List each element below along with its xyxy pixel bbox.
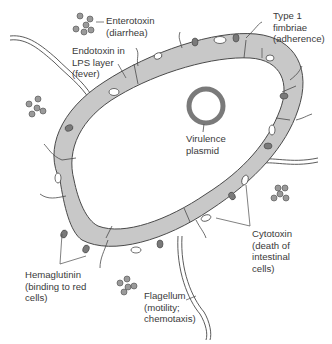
label-line: (adherence) bbox=[273, 33, 325, 44]
enterotoxin-cluster-left bbox=[26, 96, 46, 117]
label-endotoxin: Endotoxin in LPS layer (fever) bbox=[72, 45, 125, 80]
label-line: chemotaxis) bbox=[144, 313, 196, 324]
label-line: cells) bbox=[252, 263, 274, 274]
label-line: Hemaglutinin bbox=[25, 269, 81, 280]
label-fimbriae: Type 1 fimbriae (adherence) bbox=[273, 10, 325, 45]
enterotoxin-cluster-right bbox=[271, 185, 289, 201]
label-line: Cytotoxin bbox=[252, 228, 292, 239]
label-line: Virulence bbox=[186, 133, 226, 144]
label-line: Enterotoxin bbox=[106, 15, 155, 26]
label-line: (motility; bbox=[144, 302, 180, 313]
label-line: (diarrhea) bbox=[106, 27, 148, 38]
enterotoxin-cluster-top bbox=[73, 13, 94, 35]
label-cytotoxin: Cytotoxin (death of intestinal cells) bbox=[252, 228, 292, 274]
label-line: (binding to red bbox=[25, 281, 86, 292]
bacterial-cell-diagram: Enterotoxin (diarrhea) Endotoxin in LPS … bbox=[0, 0, 332, 344]
label-virulence-plasmid: Virulence plasmid bbox=[186, 133, 226, 156]
label-line: cells) bbox=[25, 292, 47, 303]
label-line: Flagellum bbox=[144, 290, 186, 301]
enterotoxin-cluster-bottom bbox=[117, 276, 137, 295]
label-line: intestinal bbox=[252, 251, 290, 262]
label-line: fimbriae bbox=[273, 22, 307, 33]
label-flagellum: Flagellum (motility; chemotaxis) bbox=[144, 290, 196, 325]
label-enterotoxin: Enterotoxin (diarrhea) bbox=[106, 15, 155, 38]
label-line: plasmid bbox=[186, 145, 219, 156]
label-line: (fever) bbox=[72, 68, 100, 79]
label-line: Endotoxin in bbox=[72, 45, 125, 56]
label-line: (death of bbox=[252, 240, 290, 251]
label-hemaglutinin: Hemaglutinin (binding to red cells) bbox=[25, 269, 86, 304]
label-line: LPS layer bbox=[72, 57, 114, 68]
label-line: Type 1 bbox=[273, 10, 302, 21]
